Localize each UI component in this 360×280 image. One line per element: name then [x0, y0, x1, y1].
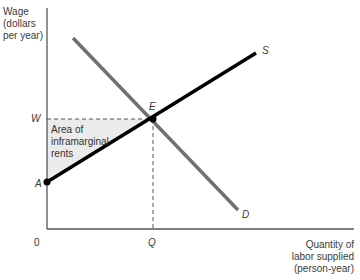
equilibrium-label: E — [149, 101, 156, 113]
y-axis-label-line3: per year) — [3, 30, 43, 42]
wage-label: W — [31, 113, 40, 125]
y-axis-label-line2: (dollars — [3, 18, 43, 30]
x-axis-label-line3: (person-year) — [292, 263, 354, 275]
x-axis-label-line2: labor supplied — [292, 251, 354, 263]
supply-label: S — [262, 45, 269, 57]
area-label-line3: rents — [51, 148, 109, 160]
y-axis-label-line1: Wage — [3, 6, 43, 18]
origin-label: 0 — [34, 237, 40, 249]
point-a — [44, 179, 51, 186]
point-e — [150, 116, 157, 123]
area-label-line2: inframarginal — [51, 136, 109, 148]
inframarginal-rents-label: Area of inframarginal rents — [51, 124, 109, 160]
intercept-label: A — [35, 178, 42, 190]
y-axis-label: Wage (dollars per year) — [3, 6, 43, 42]
x-axis-label: Quantity of labor supplied (person-year) — [292, 239, 354, 275]
area-label-line1: Area of — [51, 124, 109, 136]
x-axis-label-line1: Quantity of — [292, 239, 354, 251]
quantity-label: Q — [148, 237, 156, 249]
demand-label: D — [242, 209, 249, 221]
